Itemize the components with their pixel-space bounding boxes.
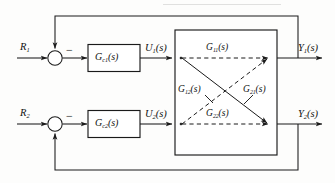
label-u1: U1(s) xyxy=(145,43,167,54)
summing-junction-2 xyxy=(48,117,62,131)
node-u1-entry xyxy=(180,57,182,59)
label-y1: Y1(s) xyxy=(298,43,318,54)
label-r1: R1 xyxy=(20,42,30,53)
label-r2: R2 xyxy=(20,108,30,119)
label-controller-gc1: Gc1(s) xyxy=(95,52,118,63)
node-u2-entry xyxy=(180,123,182,125)
block-diagram-figure: R1 − Gc1(s) U1(s) G11(s) Y1(s) G12(s) G2… xyxy=(0,0,335,183)
scan-artifact xyxy=(163,4,281,5)
label-g21: G21(s) xyxy=(243,85,266,96)
summing-junction-1 xyxy=(48,51,62,65)
label-controller-gc2: Gc2(s) xyxy=(95,118,118,129)
minus-sign-sum1: − xyxy=(66,44,73,56)
label-g11: G11(s) xyxy=(206,43,228,54)
label-y2: Y2(s) xyxy=(298,109,318,120)
label-g22: G22(s) xyxy=(206,109,229,120)
diagram-canvas xyxy=(0,0,335,183)
minus-sign-sum2: − xyxy=(66,110,73,122)
label-g12: G12(s) xyxy=(178,85,201,96)
label-u2: U2(s) xyxy=(145,109,167,120)
